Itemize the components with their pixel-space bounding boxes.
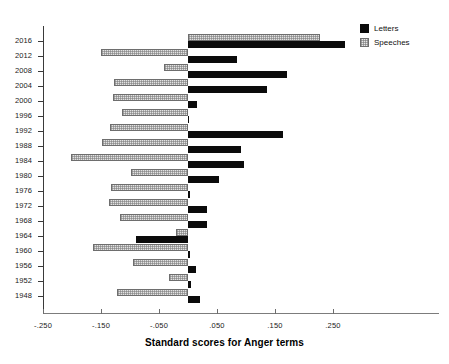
bar-letters-1952 — [188, 281, 191, 288]
y-tick — [38, 176, 44, 177]
bar-speeches-1972 — [109, 199, 188, 206]
y-tick — [38, 116, 44, 117]
legend-item-letters[interactable]: Letters — [360, 22, 410, 34]
bar-speeches-2000 — [113, 94, 188, 101]
x-tick — [333, 309, 334, 314]
y-tick-label: 1988 — [0, 142, 32, 150]
legend-label-letters: Letters — [374, 24, 398, 33]
bar-speeches-1992 — [110, 124, 188, 131]
x-tick-label: .050 — [195, 321, 239, 330]
bar-letters-1948 — [188, 296, 200, 303]
bar-letters-1980 — [188, 176, 219, 183]
y-tick-label: 1972 — [0, 202, 32, 210]
bar-speeches-1976 — [111, 184, 188, 191]
y-tick — [38, 161, 44, 162]
bar-speeches-1980 — [131, 169, 188, 176]
y-tick-label: 1996 — [0, 112, 32, 120]
y-tick — [38, 101, 44, 102]
x-tick — [275, 309, 276, 314]
bar-speeches-2008 — [164, 64, 188, 71]
bar-letters-2008 — [188, 71, 287, 78]
bar-letters-1996 — [188, 116, 189, 123]
x-axis-title: Standard scores for Anger terms — [0, 337, 449, 348]
legend: Letters Speeches — [360, 22, 410, 50]
x-tick-label: -.250 — [21, 321, 65, 330]
bar-speeches-2016 — [188, 34, 320, 41]
bar-letters-2016 — [188, 41, 345, 48]
y-tick — [38, 86, 44, 87]
bar-speeches-2012 — [101, 49, 188, 56]
y-tick — [38, 56, 44, 57]
bar-speeches-1996 — [122, 109, 188, 116]
y-tick — [38, 281, 44, 282]
bar-letters-1992 — [188, 131, 283, 138]
y-tick-label: 2012 — [0, 52, 32, 60]
y-tick — [38, 41, 44, 42]
y-tick-label: 1992 — [0, 127, 32, 135]
y-tick-label: 1952 — [0, 277, 32, 285]
x-tick-label: .150 — [253, 321, 297, 330]
legend-item-speeches[interactable]: Speeches — [360, 36, 410, 48]
y-tick — [38, 206, 44, 207]
y-tick-label: 1960 — [0, 247, 32, 255]
x-tick-label: -.150 — [79, 321, 123, 330]
bar-letters-1984 — [188, 161, 244, 168]
y-tick-label: 1948 — [0, 292, 32, 300]
legend-label-speeches: Speeches — [374, 38, 410, 47]
y-tick-label: 1968 — [0, 217, 32, 225]
bar-speeches-2004 — [114, 79, 188, 86]
bar-speeches-1988 — [102, 139, 188, 146]
y-tick-label: 1980 — [0, 172, 32, 180]
bar-letters-1988 — [188, 146, 241, 153]
bar-letters-2004 — [188, 86, 267, 93]
bar-speeches-1968 — [120, 214, 188, 221]
y-tick — [38, 266, 44, 267]
y-tick-label: 2008 — [0, 67, 32, 75]
bar-letters-1976 — [188, 191, 190, 198]
bar-speeches-1984 — [71, 154, 188, 161]
x-tick-label: .250 — [311, 321, 355, 330]
y-tick-label: 1956 — [0, 262, 32, 270]
y-tick-label: 2016 — [0, 37, 32, 45]
y-tick — [38, 191, 44, 192]
bar-letters-1964 — [136, 236, 188, 243]
bar-letters-2000 — [188, 101, 197, 108]
bar-speeches-1952 — [169, 274, 188, 281]
y-tick-label: 1976 — [0, 187, 32, 195]
legend-swatch-speeches-icon — [360, 38, 369, 47]
y-tick — [38, 146, 44, 147]
x-tick-label: -.050 — [137, 321, 181, 330]
bar-letters-1968 — [188, 221, 207, 228]
x-tick — [101, 309, 102, 314]
bar-letters-1960 — [188, 251, 190, 258]
bar-speeches-1956 — [133, 259, 188, 266]
y-tick — [38, 131, 44, 132]
bar-speeches-1960 — [93, 244, 188, 251]
bar-letters-2012 — [188, 56, 237, 63]
x-tick — [159, 309, 160, 314]
y-tick-label: 1984 — [0, 157, 32, 165]
y-tick — [38, 296, 44, 297]
bar-letters-1956 — [188, 266, 196, 273]
legend-swatch-letters-icon — [360, 24, 369, 33]
x-axis-line — [43, 313, 439, 314]
y-tick — [38, 221, 44, 222]
bar-letters-1972 — [188, 206, 207, 213]
y-tick-label: 1964 — [0, 232, 32, 240]
x-tick — [217, 309, 218, 314]
y-tick — [38, 251, 44, 252]
bar-speeches-1964 — [176, 229, 188, 236]
anger-terms-bar-chart: 2016201220082004200019961992198819841980… — [0, 0, 449, 364]
x-tick — [43, 309, 44, 314]
y-tick-label: 2004 — [0, 82, 32, 90]
y-tick — [38, 71, 44, 72]
y-tick — [38, 236, 44, 237]
y-axis-line — [43, 26, 44, 314]
bar-speeches-1948 — [117, 289, 188, 296]
y-tick-label: 2000 — [0, 97, 32, 105]
